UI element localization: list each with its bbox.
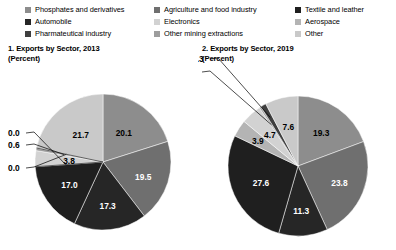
legend-column-2: Agriculture and food industry Electronic… <box>154 4 257 40</box>
legend-column-3: Textile and leather Aerospace Other <box>295 4 364 40</box>
legend-item-label: Electronics <box>164 18 200 26</box>
pie-slice-label: 0.0 <box>8 163 20 173</box>
pie-slice-label: 3.8 <box>63 156 75 166</box>
legend-item-label: Other mining extractions <box>164 30 243 38</box>
legend-item: Phosphates and derivatives <box>25 4 125 15</box>
legend-swatch-icon <box>154 19 160 25</box>
pie-slice-label: 27.6 <box>253 178 270 188</box>
pie-slice-label: 1.3 <box>198 54 204 64</box>
pie-slice-label: 20.1 <box>116 128 133 138</box>
pie-chart-1: 20.119.517.317.00.03.80.60.021.7 <box>0 44 198 250</box>
legend-swatch-icon <box>154 7 160 13</box>
legend-swatch-icon <box>25 19 31 25</box>
legend-column-1: Phosphates and derivatives Automobile Ph… <box>25 4 125 40</box>
legend-item: Electronics <box>154 16 257 27</box>
legend-swatch-icon <box>25 31 31 37</box>
legend-item: Pharmateutical industry <box>25 28 125 39</box>
pie-slice-label: 11.3 <box>293 206 309 216</box>
legend-item: Agriculture and food industry <box>154 4 257 15</box>
legend-item-label: Aerospace <box>305 18 340 26</box>
pie-slice-label: 0.0 <box>8 128 20 138</box>
pie-slice-label: 17.0 <box>61 180 78 190</box>
pie-slice-label: 19.5 <box>135 172 152 182</box>
pie-slice-label: 0.6 <box>8 140 20 150</box>
legend-item-label: Other <box>305 30 323 38</box>
pie-slice-label: 21.7 <box>73 130 90 140</box>
legend-item: Other mining extractions <box>154 28 257 39</box>
pie-chart-1-svg: 20.119.517.317.00.03.80.60.021.7 <box>0 44 198 250</box>
legend-swatch-icon <box>295 19 301 25</box>
legend-item-label: Phosphates and derivatives <box>35 6 125 14</box>
chart-panel-1: 1. Exports by Sector, 2013 (Percent) 20.… <box>0 44 198 250</box>
legend-swatch-icon <box>25 7 31 13</box>
pie-slice-label: 19.3 <box>313 128 330 138</box>
pie-chart-2-svg: 19.323.811.327.63.94.70.41.37.6 <box>198 44 396 250</box>
pie-slice-label: 4.7 <box>264 130 276 140</box>
pie-slice-label: 17.3 <box>99 201 116 211</box>
legend-item-label: Agriculture and food industry <box>164 6 257 14</box>
pie-slice-label: 23.8 <box>331 178 348 188</box>
chart-legend: Phosphates and derivatives Automobile Ph… <box>0 0 396 40</box>
legend-swatch-icon <box>295 7 301 13</box>
pie-slice-label: 7.6 <box>283 122 295 132</box>
pie-slice-label: 3.9 <box>252 136 264 146</box>
legend-item: Other <box>295 28 364 39</box>
legend-item-label: Pharmateutical industry <box>35 30 111 38</box>
legend-item-label: Automobile <box>35 18 71 26</box>
legend-item: Automobile <box>25 16 125 27</box>
chart-panel-2: 2. Exports by Sector, 2019 (Percent) 19.… <box>198 44 396 250</box>
legend-item: Textile and leather <box>295 4 364 15</box>
legend-swatch-icon <box>295 31 301 37</box>
legend-item-label: Textile and leather <box>305 6 364 14</box>
legend-item: Aerospace <box>295 16 364 27</box>
legend-swatch-icon <box>154 31 160 37</box>
pie-chart-2: 19.323.811.327.63.94.70.41.37.6 <box>198 44 396 250</box>
